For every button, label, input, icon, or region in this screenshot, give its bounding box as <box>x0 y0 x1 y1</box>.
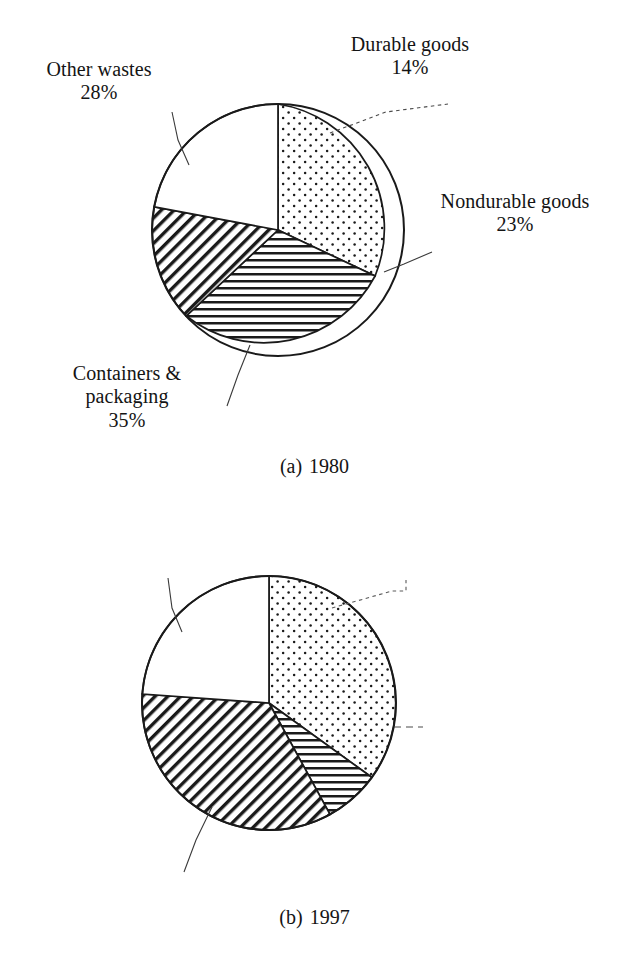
pie-label-containers-packaging-value: 35% <box>32 409 222 432</box>
pie-label-nondurable-goods: Nondurable goods 23% <box>404 190 626 237</box>
pie-label-other-wastes: Other wastes 28% <box>6 58 192 105</box>
pie-label-other-wastes-value: 28% <box>6 81 192 104</box>
pie-label-containers-packaging-text-line1: Containers & <box>32 362 222 385</box>
panel-caption-1980: (a)1980 <box>0 455 629 478</box>
pie-panel-1980: Durable goods 14% Other wastes 28% Nondu… <box>0 0 629 480</box>
leader-line-durable-goods <box>330 104 448 133</box>
pie-label-durable-goods-value: 14% <box>312 56 508 79</box>
pie-panel-1997: Durable goods 15% Other wastes 24% Nondu… <box>0 480 629 954</box>
leader-line-nondurable-goods <box>384 252 432 272</box>
pie-chart-1997 <box>0 480 629 954</box>
pie-label-other-wastes-text: Other wastes <box>6 58 192 81</box>
pie-label-nondurable-goods-text: Nondurable goods <box>404 190 626 213</box>
pie-label-nondurable-goods-value: 23% <box>404 213 626 236</box>
leader-line-containers-packaging <box>227 345 250 406</box>
pie-label-durable-goods-text: Durable goods <box>312 33 508 56</box>
pie-slice-other-wastes <box>154 104 278 230</box>
pie-label-containers-packaging: Containers & packaging 35% <box>32 362 222 432</box>
figure-root: Durable goods 14% Other wastes 28% Nondu… <box>0 0 629 954</box>
panel-caption-year-b: 1997 <box>310 906 350 928</box>
panel-caption-year-a: 1980 <box>309 455 349 477</box>
panel-caption-1997: (b)1997 <box>0 906 629 929</box>
pie-slice-other-wastes <box>142 576 269 703</box>
pie-label-durable-goods: Durable goods 14% <box>312 33 508 80</box>
panel-caption-index-a: (a) <box>280 455 302 477</box>
panel-caption-index-b: (b) <box>279 906 302 928</box>
leader-line-containers-packaging <box>184 807 212 872</box>
pie-label-containers-packaging-text-line2: packaging <box>32 385 222 408</box>
